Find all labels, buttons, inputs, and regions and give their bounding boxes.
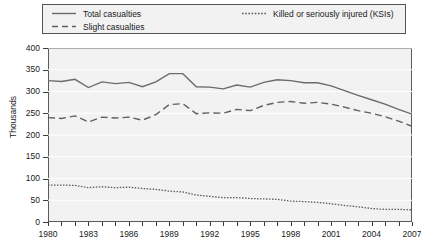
x-axis-label: 2001	[322, 229, 341, 239]
x-axis-tick	[169, 222, 170, 226]
x-axis-tick	[210, 222, 211, 226]
x-axis-tick	[237, 222, 238, 226]
x-axis-tick	[196, 222, 197, 226]
x-axis-tick	[345, 222, 346, 226]
x-axis-label: 1989	[160, 229, 179, 239]
x-axis-tick	[142, 222, 143, 226]
series-line-0	[48, 74, 412, 114]
x-axis-tick	[115, 222, 116, 226]
x-axis-tick	[399, 222, 400, 226]
legend-swatch-solid-icon	[51, 9, 77, 18]
x-axis-label: 2004	[362, 229, 381, 239]
x-axis-label: 1980	[39, 229, 58, 239]
y-axis-label: 50	[14, 196, 40, 205]
x-axis-tick	[291, 222, 292, 226]
legend-label-ksi: Killed or seriously injured (KSIs)	[273, 9, 393, 19]
series-layer	[48, 48, 412, 222]
x-axis-label: 1998	[281, 229, 300, 239]
y-axis-label: 350	[14, 65, 40, 74]
y-axis-label: 200	[14, 131, 40, 140]
y-axis-label: 150	[14, 152, 40, 161]
y-axis-label: 300	[14, 87, 40, 96]
y-axis-label: 0	[14, 218, 40, 227]
x-axis-tick	[318, 222, 319, 226]
x-axis-tick	[264, 222, 265, 226]
x-axis-tick	[331, 222, 332, 226]
legend-item-total-casualties: Total casualties	[51, 7, 141, 20]
x-axis-tick	[129, 222, 130, 226]
x-axis-tick	[250, 222, 251, 226]
y-axis-label: 100	[14, 174, 40, 183]
legend-label-slight-casualties: Slight casualties	[83, 22, 144, 32]
x-axis-tick	[48, 222, 49, 226]
chart-legend: Total casualties Slight casualties Kille…	[42, 4, 406, 34]
x-axis-tick	[372, 222, 373, 226]
legend-label-total-casualties: Total casualties	[83, 9, 141, 19]
x-axis-tick	[102, 222, 103, 226]
x-axis-tick	[358, 222, 359, 226]
x-axis-tick	[75, 222, 76, 226]
x-axis-tick	[156, 222, 157, 226]
legend-item-ksi: Killed or seriously injured (KSIs)	[241, 7, 393, 20]
x-axis-tick	[223, 222, 224, 226]
x-axis-tick	[61, 222, 62, 226]
x-axis-tick	[412, 222, 413, 226]
y-axis-label: 250	[14, 109, 40, 118]
series-line-1	[48, 102, 412, 127]
x-axis-label: 1995	[241, 229, 260, 239]
x-axis-label: 2007	[403, 229, 421, 239]
series-line-2	[48, 185, 412, 210]
x-axis-tick	[88, 222, 89, 226]
x-axis-tick	[304, 222, 305, 226]
x-axis-label: 1983	[79, 229, 98, 239]
x-axis-tick	[277, 222, 278, 226]
legend-swatch-dashed-icon	[51, 22, 77, 31]
x-axis-label: 1986	[119, 229, 138, 239]
x-axis-label: 1992	[200, 229, 219, 239]
legend-item-slight-casualties: Slight casualties	[51, 20, 144, 33]
x-axis-tick	[183, 222, 184, 226]
legend-swatch-dotted-icon	[241, 9, 267, 18]
x-axis-tick	[385, 222, 386, 226]
y-axis-label: 400	[14, 44, 40, 53]
